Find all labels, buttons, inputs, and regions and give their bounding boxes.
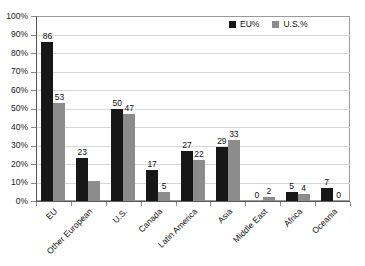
legend-item-eu: EU% — [229, 20, 259, 29]
bar-value-label: 29 — [217, 137, 226, 146]
x-axis-label: U.S. — [112, 207, 130, 225]
bar-eu — [181, 151, 193, 201]
y-axis-label: 100% — [0, 12, 28, 21]
y-axis-label: 20% — [0, 160, 28, 169]
bar-eu — [111, 109, 123, 202]
bar-value-label: 5 — [289, 182, 294, 191]
x-axis-tick — [210, 202, 211, 206]
bar-eu — [216, 147, 228, 201]
x-axis-tick — [245, 202, 246, 206]
chart-legend: EU% U.S.% — [222, 17, 314, 32]
bar-eu — [321, 188, 333, 201]
legend-label-eu: EU% — [240, 20, 259, 29]
bar-us — [193, 160, 205, 201]
bar-value-label: 22 — [194, 150, 203, 159]
bar-us — [228, 140, 240, 201]
x-axis-tick — [315, 202, 316, 206]
legend-swatch-eu-icon — [229, 21, 236, 28]
bar-value-label: 50 — [112, 99, 121, 108]
bar-value-label: 23 — [78, 148, 87, 157]
x-axis-tick — [280, 202, 281, 206]
y-axis-label: 30% — [0, 141, 28, 150]
bar-us — [123, 114, 135, 201]
bar-us — [263, 197, 275, 201]
x-axis-label: Oceania — [310, 207, 339, 236]
bar-us — [88, 181, 100, 201]
bar-value-label: 86 — [43, 32, 52, 41]
y-axis-label: 70% — [0, 67, 28, 76]
x-axis-label: Middle East — [231, 207, 269, 245]
x-axis-line — [36, 201, 350, 202]
bar-value-label: 0 — [254, 191, 259, 200]
bar-value-label: 4 — [301, 184, 306, 193]
bar-value-label: 7 — [324, 178, 329, 187]
y-axis-label: 60% — [0, 86, 28, 95]
x-axis-tick — [71, 202, 72, 206]
y-axis-label: 50% — [0, 104, 28, 113]
x-axis-label: Asia — [216, 207, 234, 225]
x-axis-label: Canada — [137, 207, 164, 234]
bar-value-label: 33 — [229, 130, 238, 139]
x-axis-label: EU — [45, 207, 60, 222]
y-axis-label: 80% — [0, 49, 28, 58]
x-axis-tick — [350, 202, 351, 206]
bar-value-label: 17 — [147, 160, 156, 169]
x-axis-tick — [106, 202, 107, 206]
bar-chart: 0%10%20%30%40%50%60%70%80%90%100% 865323… — [0, 0, 365, 266]
bar-eu — [41, 42, 53, 201]
bars-layer — [36, 16, 350, 201]
legend-item-us: U.S.% — [272, 20, 307, 29]
x-axis-tick — [176, 202, 177, 206]
bar-eu — [286, 192, 298, 201]
y-axis-label: 90% — [0, 30, 28, 39]
y-axis-label: 10% — [0, 178, 28, 187]
legend-swatch-us-icon — [272, 21, 279, 28]
bar-value-label: 0 — [336, 191, 341, 200]
x-axis-tick — [141, 202, 142, 206]
bar-value-label: 27 — [182, 141, 191, 150]
bar-us — [158, 192, 170, 201]
y-axis-label: 0% — [0, 197, 28, 206]
bar-eu — [146, 170, 158, 201]
bar-value-label: 2 — [266, 187, 271, 196]
bar-value-label: 5 — [162, 182, 167, 191]
bar-us — [298, 194, 310, 201]
y-axis-label: 40% — [0, 123, 28, 132]
bar-us — [53, 103, 65, 201]
bar-value-label: 53 — [55, 93, 64, 102]
x-axis-label: Africa — [282, 207, 304, 229]
x-axis-tick — [36, 202, 37, 206]
bar-value-label: 47 — [124, 104, 133, 113]
legend-label-us: U.S.% — [283, 20, 307, 29]
bar-eu — [76, 158, 88, 201]
